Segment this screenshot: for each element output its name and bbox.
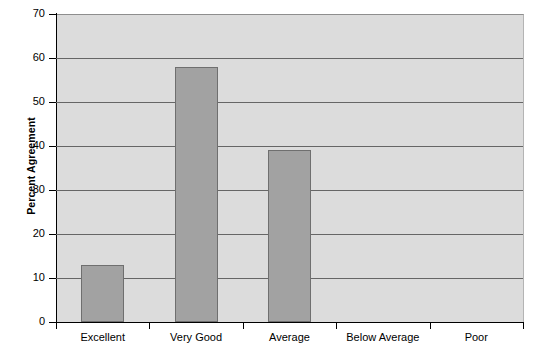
y-axis-tick-label: 30 xyxy=(5,183,45,195)
y-axis-tick xyxy=(49,14,56,15)
y-axis-tick xyxy=(49,234,56,235)
y-axis-tick-label: 10 xyxy=(5,271,45,283)
y-axis-tick xyxy=(49,102,56,103)
y-axis-tick xyxy=(49,278,56,279)
x-axis-tick xyxy=(523,322,524,329)
x-axis-tick xyxy=(336,322,337,329)
x-axis-tick-label: Poor xyxy=(430,331,523,343)
bar-chart: Percent Agreement 010203040506070 Excell… xyxy=(0,0,545,352)
y-axis-tick xyxy=(49,58,56,59)
x-axis-tick xyxy=(430,322,431,329)
x-axis-tick xyxy=(243,322,244,329)
y-axis-tick xyxy=(49,146,56,147)
y-axis-title: Percent Agreement xyxy=(25,86,37,246)
gridline xyxy=(56,58,523,59)
bar xyxy=(175,67,218,322)
x-axis-tick-label: Very Good xyxy=(149,331,242,343)
x-axis-tick-label: Excellent xyxy=(56,331,149,343)
y-axis-tick xyxy=(49,190,56,191)
bar xyxy=(268,150,311,322)
x-axis-line xyxy=(55,322,524,323)
y-axis-tick-label: 50 xyxy=(5,95,45,107)
bar xyxy=(81,265,124,322)
gridline xyxy=(56,146,523,147)
y-axis-tick-label: 70 xyxy=(5,7,45,19)
x-axis-tick xyxy=(56,322,57,329)
x-axis-tick-label: Average xyxy=(243,331,336,343)
y-axis-tick xyxy=(49,322,56,323)
y-axis-tick-label: 40 xyxy=(5,139,45,151)
y-axis-line xyxy=(56,13,57,323)
y-axis-tick-label: 0 xyxy=(5,315,45,327)
x-axis-tick xyxy=(149,322,150,329)
gridline xyxy=(56,102,523,103)
y-axis-tick-label: 60 xyxy=(5,51,45,63)
x-axis-tick-label: Below Average xyxy=(336,331,429,343)
y-axis-tick-label: 20 xyxy=(5,227,45,239)
